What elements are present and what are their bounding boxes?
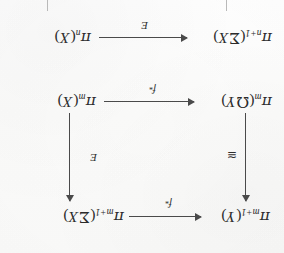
node-argument: X xyxy=(68,209,78,226)
arrow-head xyxy=(67,195,75,202)
commutative-diagram: πm+1(Y) πm+1(ΣX) f* ≅ E πm(ΩY) xyxy=(0,0,284,253)
node-pi-symbol: π xyxy=(81,29,91,47)
arrow-suspension-right xyxy=(64,113,76,201)
node-open-paren: ( xyxy=(240,30,245,47)
arrow-label-text: ≅ xyxy=(227,148,237,162)
arrow-label-star: * xyxy=(165,196,169,205)
node-subscript: m xyxy=(255,92,262,102)
node-pi-symbol: π xyxy=(260,208,270,226)
node-pi-symbol: π xyxy=(262,93,272,111)
node-close-paren: ) xyxy=(221,209,226,226)
node-pi-m-plus-1-sigma-x: πm+1(ΣX) xyxy=(63,206,124,225)
node-argument: X xyxy=(60,30,70,47)
node-pi-symbol: π xyxy=(114,208,124,226)
node-pi-m-plus-1-y: πm+1(Y) xyxy=(221,206,270,225)
arrow-label-f-star-middle: f* xyxy=(149,82,156,95)
arrow-shaft xyxy=(104,101,194,102)
node-close-paren: ) xyxy=(213,30,218,47)
arrow-head xyxy=(243,195,251,202)
arrow-label-text: f xyxy=(153,84,156,96)
node-open-paren: ( xyxy=(249,94,254,111)
node-pi-n-x: πn(X) xyxy=(55,27,91,46)
arrow-label-text: E xyxy=(141,20,148,32)
arrow-shaft xyxy=(246,113,247,201)
arrow-shaft xyxy=(99,37,187,38)
node-subscript: n xyxy=(76,28,81,38)
node-argument: Y xyxy=(226,209,235,226)
arrow-f-star-middle xyxy=(104,95,194,107)
node-argument: X xyxy=(63,94,73,111)
node-close-paren: ) xyxy=(57,94,62,111)
scanned-page: πm+1(Y) πm+1(ΣX) f* ≅ E πm(ΩY) xyxy=(0,0,284,253)
node-subscript: m+1 xyxy=(241,207,259,217)
arrow-label-suspension-right: E xyxy=(90,152,97,163)
node-open-paren: ( xyxy=(73,94,78,111)
node-open-paren: ( xyxy=(90,209,95,226)
node-subscript: n+1 xyxy=(245,28,261,38)
node-close-paren: ) xyxy=(63,209,68,226)
node-pi-n-plus-1-sigma-x: πn+1(ΣX) xyxy=(213,27,272,46)
arrow-shaft xyxy=(129,216,201,217)
arrow-label-f-star-bottom: f* xyxy=(165,196,172,209)
arrow-label-text: E xyxy=(90,152,97,164)
arrow-head xyxy=(188,98,195,106)
arrow-label-iso-left: ≅ xyxy=(227,149,237,161)
arrow-label-text: f xyxy=(169,198,172,210)
node-open-paren: ( xyxy=(236,209,241,226)
node-pi-m-omega-y: πm(ΩY) xyxy=(221,91,272,110)
node-subscript: m+1 xyxy=(95,207,113,217)
arrow-label-star: * xyxy=(149,82,153,91)
arrow-iso-left xyxy=(240,113,252,201)
node-operator-sigma: Σ xyxy=(229,29,240,47)
arrow-f-star-bottom xyxy=(129,210,201,222)
scan-edge-tick-right xyxy=(226,0,227,11)
node-pi-symbol: π xyxy=(262,29,272,47)
node-argument: X xyxy=(219,30,229,47)
node-argument: Y xyxy=(227,94,236,111)
node-pi-m-x: πm(X) xyxy=(57,91,96,110)
node-open-paren: ( xyxy=(70,30,75,47)
node-operator-sigma: Σ xyxy=(79,208,90,226)
node-operator-omega: Ω xyxy=(236,93,249,111)
arrow-shaft xyxy=(70,113,71,201)
node-close-paren: ) xyxy=(221,94,226,111)
arrow-label-suspension-top: E xyxy=(141,20,148,31)
arrow-suspension-top xyxy=(99,31,187,43)
node-pi-symbol: π xyxy=(86,93,96,111)
node-close-paren: ) xyxy=(55,30,60,47)
arrow-head xyxy=(181,34,188,42)
arrow-head xyxy=(195,213,202,221)
node-subscript: m xyxy=(79,92,86,102)
scan-edge-tick-left xyxy=(47,0,48,11)
